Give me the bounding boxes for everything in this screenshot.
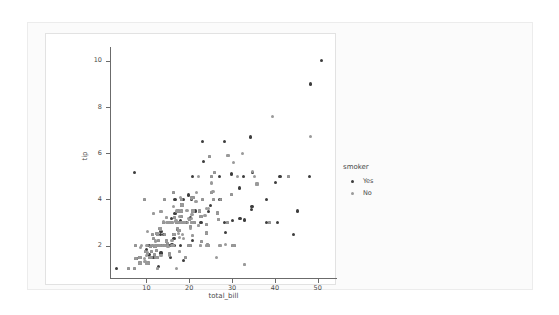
y-tick-label: 4 [80,196,102,203]
scatter-point [210,175,213,178]
scatter-point [191,234,194,237]
scatter-point [172,191,175,194]
y-tick-mark [106,153,110,154]
scatter-point [216,211,219,214]
scatter-point [157,239,160,242]
scatter-point [159,210,162,213]
y-tick-label: 8 [80,104,102,111]
scatter-point [209,204,212,207]
axes-panel: 246810 1020304050 tip total_bill [45,33,336,285]
scatter-point [163,233,166,236]
scatter-point [236,175,239,178]
legend-marker-icon [351,180,354,183]
scatter-point [210,181,213,184]
scatter-point [182,237,185,240]
scatter-point [276,221,279,224]
scatter-point [205,223,208,226]
y-tick-label: 2 [80,242,102,249]
scatter-point [146,230,149,233]
scatter-point [230,193,233,196]
scatter-point [185,209,188,212]
scatter-point [163,198,166,201]
scatter-point [182,259,185,262]
scatter-point [180,203,183,206]
scatter-point [177,229,180,232]
scatter-point [242,175,245,178]
scatter-point [190,196,193,199]
scatter-point [145,261,148,264]
y-tick-mark [106,61,110,62]
scatter-point [224,243,227,246]
legend-marker-icon [351,192,354,195]
scatter-point [176,209,179,212]
scatter-point [230,172,233,175]
scatter-point [127,267,130,270]
scatter-point [133,267,136,270]
scatter-point [184,256,187,259]
scatter-point [203,214,206,217]
scatter-point [178,250,181,253]
scatter-point [173,216,176,219]
scatter-point [308,175,311,178]
scatter-point [186,221,189,224]
x-tick-label: 20 [178,285,200,292]
scatter-point [292,233,295,236]
y-axis-spine [110,47,111,279]
y-tick-label: 10 [80,57,102,64]
scatter-point [194,200,197,203]
scatter-point [180,209,183,212]
scatter-point [296,209,299,212]
scatter-point [215,256,218,259]
x-tick-mark [189,279,190,283]
scatter-point [155,249,158,252]
scatter-point [200,240,203,243]
page-root: 246810 1020304050 tip total_bill smoker … [0,0,559,315]
scatter-point [152,212,155,215]
scatter-point [207,210,210,213]
scatter-point [177,232,180,235]
scatter-point [149,245,152,248]
scatter-point [287,175,290,178]
scatter-point [213,171,216,174]
scatter-point [218,244,221,247]
scatter-point [274,181,277,184]
scatter-point [224,231,227,234]
scatter-point [232,161,235,164]
scatter-point [198,209,201,212]
x-tick-mark [146,279,147,283]
scatter-point [175,267,178,270]
scatter-point [138,256,141,259]
x-axis-label: total_bill [110,292,337,300]
scatter-point [181,233,184,236]
scatter-point [138,261,141,264]
scatter-point [165,216,168,219]
scatter-point [115,267,118,270]
scatter-point [191,209,194,212]
scatter-point [153,245,156,248]
scatter-point [158,227,161,230]
scatter-point [250,208,253,211]
legend-title: smoker [343,163,369,171]
x-tick-mark [318,279,319,283]
scatter-point [148,256,151,259]
scatter-point [180,215,183,218]
x-axis-spine [110,278,337,279]
x-tick-label: 50 [307,285,329,292]
scatter-point [159,233,162,236]
scatter-point [188,218,191,221]
scatter-point [223,140,226,143]
scatter-point [171,244,174,247]
legend-label: Yes [363,177,374,186]
scatter-point [268,221,271,224]
scatter-point [238,186,241,189]
scatter-point [278,175,281,178]
scatter-point [255,182,258,185]
scatter-point [226,154,229,157]
scatter-point [207,244,210,247]
scatter-point [179,244,182,247]
scatter-point [139,246,142,249]
scatter-point [197,224,200,227]
scatter-point [202,160,205,163]
scatter-point [134,244,137,247]
scatter-point [238,217,241,220]
